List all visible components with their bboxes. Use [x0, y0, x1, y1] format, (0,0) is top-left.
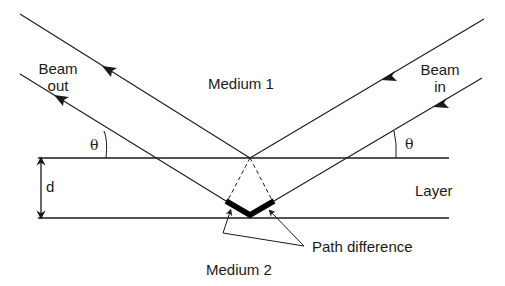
beam-in-label: Beam in	[418, 61, 462, 95]
angle-arc-right	[394, 131, 396, 158]
dashed-construction-right	[250, 158, 272, 200]
thickness-label: d	[46, 178, 54, 195]
angle-arc-left	[104, 131, 107, 158]
medium-1-label: Medium 1	[208, 75, 274, 92]
diagram-graphics	[0, 0, 505, 286]
callout-line-right	[271, 212, 304, 246]
layer-label: Layer	[415, 182, 453, 199]
path-difference-segment	[226, 201, 274, 215]
beam-in-label-line2: in	[418, 78, 462, 95]
theta-right-label: θ	[405, 136, 413, 153]
theta-left-label: θ	[90, 137, 98, 154]
beam-out-label-line2: out	[36, 77, 80, 94]
beam-out-label: Beam out	[36, 60, 80, 94]
thin-film-interference-diagram: Beam out Beam in Medium 1 Medium 2 Layer…	[0, 0, 505, 286]
dashed-construction-left	[228, 158, 250, 200]
medium-2-label: Medium 2	[206, 261, 272, 278]
arrow-icon	[102, 66, 117, 77]
path-difference-label: Path difference	[312, 238, 413, 255]
beam-in-label-line1: Beam	[418, 61, 462, 78]
beam-out-label-line1: Beam	[36, 60, 80, 77]
arrow-icon	[54, 95, 69, 106]
callout-line-left	[223, 212, 304, 246]
